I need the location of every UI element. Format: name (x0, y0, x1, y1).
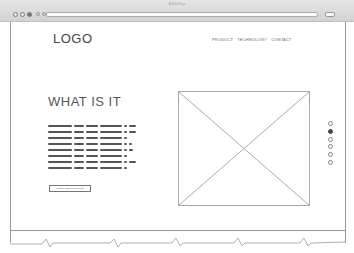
pager-dot-2-active[interactable] (328, 129, 333, 134)
nav-contact[interactable]: CONTACT (271, 37, 291, 42)
nav-product[interactable]: PRODUCT (212, 37, 233, 42)
placeholder-paragraph (48, 123, 158, 171)
nav-technology[interactable]: TECHNOLOGY (237, 37, 267, 42)
hero-heading: WHAT IS IT (48, 94, 121, 109)
back-icon[interactable] (36, 12, 40, 16)
pager-dot-3[interactable] (328, 137, 333, 142)
main-nav: PRODUCT TECHNOLOGY CONTACT (212, 37, 292, 42)
scribble-line (48, 165, 158, 171)
more-about-button[interactable]: MORE ABOUT BUTTON (49, 185, 91, 192)
pager-dot-4[interactable] (328, 144, 333, 149)
pager-dot-1[interactable] (328, 121, 333, 126)
image-placeholder (178, 91, 310, 206)
address-bar[interactable] (46, 12, 318, 17)
image-placeholder-icon (179, 92, 309, 205)
minimize-window-button[interactable] (20, 12, 25, 17)
pager-dot-6[interactable] (328, 160, 333, 165)
maximize-window-button[interactable] (27, 12, 32, 17)
footer-divider (10, 230, 346, 231)
browser-nav (36, 12, 46, 16)
browser-titlebar: A Web Page (0, 0, 354, 22)
pager-dot-5[interactable] (328, 152, 333, 157)
browser-title: A Web Page (0, 2, 354, 6)
browser-search-box[interactable] (325, 12, 335, 17)
slide-pager (328, 121, 333, 165)
logo[interactable]: LOGO (53, 31, 93, 46)
page-continues-zigzag-icon (10, 236, 346, 250)
close-window-button[interactable] (13, 12, 18, 17)
window-controls (13, 12, 32, 17)
